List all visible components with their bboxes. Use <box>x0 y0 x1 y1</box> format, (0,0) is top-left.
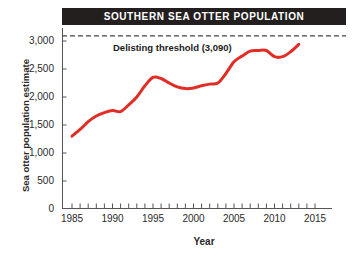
y-axis-tick-labels: 05001,0001,5002,0002,5003,000 <box>8 0 54 260</box>
x-tick-label: 1990 <box>93 214 133 224</box>
chart-title: SOUTHERN SEA OTTER POPULATION <box>104 11 305 22</box>
data-line-sea-otter-population <box>72 44 299 136</box>
x-axis-title: Year <box>62 236 346 247</box>
chart-figure: SOUTHERN SEA OTTER POPULATION Sea otter … <box>0 0 358 260</box>
y-tick-label: 2,000 <box>8 92 54 102</box>
y-tick-label: 0 <box>8 204 54 214</box>
y-tick-label: 500 <box>8 176 54 186</box>
x-tick-label: 2005 <box>214 214 254 224</box>
y-tick-label: 1,500 <box>8 120 54 130</box>
y-tick-label: 3,000 <box>8 36 54 46</box>
x-tick-label: 1995 <box>133 214 173 224</box>
y-tick-label: 1,000 <box>8 148 54 158</box>
plot-area <box>62 28 346 209</box>
x-tick-label: 2000 <box>174 214 214 224</box>
x-tick-label: 2015 <box>295 214 335 224</box>
plot-svg <box>62 28 346 209</box>
chart-title-banner: SOUTHERN SEA OTTER POPULATION <box>62 8 346 25</box>
x-tick-label: 1985 <box>52 214 92 224</box>
x-tick-label: 2010 <box>255 214 295 224</box>
y-tick-label: 2,500 <box>8 64 54 74</box>
